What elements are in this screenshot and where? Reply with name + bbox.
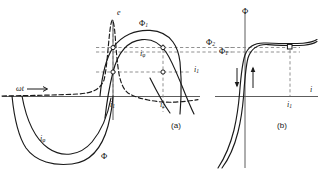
arrow-ascending-branch	[251, 66, 256, 88]
curve-induced-voltage-e	[2, 20, 198, 102]
marker-phi1-at-t2	[161, 46, 165, 50]
marker-loop-operating-point	[287, 44, 292, 49]
marker-i1-at-t2	[161, 70, 165, 74]
curve-hysteresis-ascending	[222, 42, 317, 168]
arrow-up-head	[251, 66, 256, 72]
arrow-down-head	[235, 82, 240, 88]
marker-phi1-at-t1	[111, 46, 115, 50]
figure-container: ωt Φ1 e iφ iφ Φ i1 i2 i1 (a)	[0, 0, 322, 177]
curve-exciting-current-lower-lobe	[22, 96, 111, 154]
marker-i1-at-t1	[111, 70, 115, 74]
label-curve-e: e	[117, 8, 121, 17]
label-curve-phi1: Φ1	[139, 18, 148, 29]
level-label-i1: i1	[194, 65, 199, 75]
panel-b-y-axis-label: Φ	[242, 6, 248, 16]
label-curve-i-phi: iφ	[140, 49, 145, 59]
panel-a-caption: (a)	[171, 121, 181, 130]
panel-a-x-axis-label: ωt	[16, 84, 48, 93]
panel-a: ωt Φ1 e iφ iφ Φ i1 i2 i1 (a)	[2, 8, 232, 165]
omega-t-label: ωt	[16, 84, 25, 93]
label-curve-phi-lower: Φ	[101, 151, 107, 161]
level-label-phi2: Φ2	[206, 37, 215, 48]
figure-canvas: ωt Φ1 e iφ iφ Φ i1 i2 i1 (a)	[0, 0, 322, 177]
panel-b-x-axis-label: i	[310, 85, 312, 94]
panel-b-tick-label-i1: i1	[287, 100, 292, 110]
panel-b: Φ i Φ2 Φ1 i1 (b)	[206, 6, 318, 168]
panel-b-caption: (b)	[277, 121, 287, 130]
label-curve-i-phi-lower: iφ	[40, 134, 45, 144]
arrow-descending-branch	[235, 68, 240, 88]
